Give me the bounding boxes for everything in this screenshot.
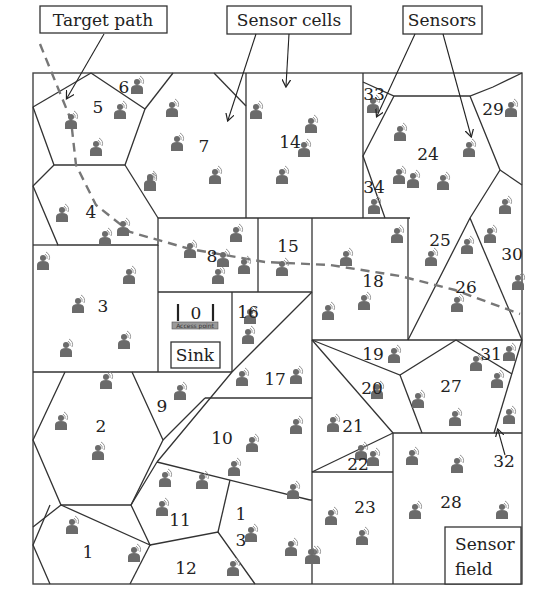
callout-sensors: Sensors bbox=[377, 6, 482, 136]
sensor-icon bbox=[274, 162, 289, 184]
sensor-icon bbox=[97, 224, 112, 246]
sensor-icon bbox=[386, 341, 401, 363]
cell-label: 10 bbox=[211, 428, 233, 448]
cell-label: 23 bbox=[354, 497, 376, 517]
cell-label: 27 bbox=[440, 376, 462, 396]
cell-label: 24 bbox=[417, 144, 439, 164]
sensor-icon bbox=[501, 339, 516, 361]
sensor-icon bbox=[482, 221, 497, 243]
cell-label: 16 bbox=[237, 302, 259, 322]
cell-label: 19 bbox=[362, 344, 384, 364]
cell-label: 5 bbox=[93, 97, 104, 117]
sensor-icon bbox=[244, 430, 259, 452]
sensor-icon bbox=[494, 497, 509, 519]
cell-label: 21 bbox=[342, 416, 364, 436]
sensor-icon bbox=[194, 467, 209, 489]
sensor-icon bbox=[389, 221, 404, 243]
sensor-icon bbox=[449, 451, 464, 473]
cell-label: 3 bbox=[236, 530, 247, 550]
callout-sensor-field: Sensor field bbox=[445, 527, 521, 584]
sensor-field-label-line1: Sensor bbox=[455, 534, 516, 554]
sensor-field-label-line2: field bbox=[455, 559, 493, 579]
cell-label: 12 bbox=[175, 558, 197, 578]
sensor-icon bbox=[354, 523, 369, 545]
cell-label: 11 bbox=[169, 510, 191, 530]
sensor-icon bbox=[391, 162, 406, 184]
sensor-icon bbox=[207, 162, 222, 184]
sensor-icon bbox=[164, 95, 179, 117]
sensor-icon bbox=[35, 248, 50, 270]
cell-label: 33 bbox=[363, 84, 385, 104]
cell-label: 14 bbox=[279, 132, 301, 152]
sensor-icon bbox=[447, 404, 462, 426]
sensor-icon bbox=[63, 107, 78, 129]
cell-label: 3 bbox=[98, 296, 109, 316]
sensor-icon bbox=[435, 168, 450, 190]
sensor-icon bbox=[121, 262, 136, 284]
sensor-icon bbox=[410, 386, 425, 408]
sensor-icon bbox=[407, 497, 422, 519]
sensor-icon bbox=[98, 367, 113, 389]
access-point-label: Access point bbox=[176, 322, 214, 330]
sensor-icon bbox=[226, 454, 241, 476]
sensor-icon bbox=[169, 129, 184, 151]
cell-label: 25 bbox=[429, 230, 451, 250]
sensor-icon bbox=[497, 192, 512, 214]
sensor-icon bbox=[325, 410, 340, 432]
cell-label: 1 bbox=[236, 504, 247, 524]
sensor-icon bbox=[53, 408, 68, 430]
sensor-icon bbox=[58, 335, 73, 357]
cell-label: 1 bbox=[83, 542, 94, 562]
sensor-icon bbox=[338, 244, 353, 266]
sensor-icon bbox=[88, 134, 103, 156]
sensors-label: Sensors bbox=[408, 10, 476, 30]
sensor-icon bbox=[503, 95, 518, 117]
sensor-icon bbox=[126, 540, 141, 562]
cell-label: 31 bbox=[480, 344, 502, 364]
sensor-icon bbox=[501, 402, 516, 424]
sensor-field-diagram: 1234567891011121314151617181920212223242… bbox=[0, 0, 552, 612]
sensor-icon bbox=[54, 200, 69, 222]
sensor-icon bbox=[489, 366, 504, 388]
target-path-label: Target path bbox=[53, 10, 153, 30]
cell-label: 8 bbox=[207, 246, 218, 266]
sensor-icon bbox=[303, 542, 318, 564]
sensor-cells-label: Sensor cells bbox=[237, 10, 341, 30]
cell-label: 15 bbox=[277, 236, 299, 256]
sensor-icon bbox=[228, 220, 243, 242]
sink-access-point: 0 Access point Sink bbox=[171, 303, 220, 368]
cell-label: 4 bbox=[86, 202, 97, 222]
cell-label: 34 bbox=[363, 177, 385, 197]
sensor-icon bbox=[157, 465, 172, 487]
sensor-icon bbox=[356, 288, 371, 310]
sensor-icon bbox=[240, 322, 255, 344]
sensor-icon bbox=[90, 438, 105, 460]
cell-label: 30 bbox=[501, 244, 523, 264]
cell-label: 6 bbox=[119, 77, 130, 97]
sensor-icon bbox=[129, 72, 144, 94]
cell-label: 9 bbox=[157, 396, 168, 416]
sensor-icon bbox=[225, 554, 240, 576]
sensor-icon bbox=[115, 214, 130, 236]
cell-label: 32 bbox=[493, 451, 515, 471]
sensor-icon bbox=[303, 111, 318, 133]
sensor-icon bbox=[285, 477, 300, 499]
cell-label: 26 bbox=[455, 277, 477, 297]
cell-label: 2 bbox=[96, 416, 107, 436]
cell-label: 29 bbox=[482, 99, 504, 119]
sensor-icon bbox=[236, 252, 251, 274]
callout-target-path: Target path bbox=[40, 6, 167, 98]
sensor-icon bbox=[70, 291, 85, 313]
sensor-icon bbox=[288, 362, 303, 384]
cell-label: 28 bbox=[440, 492, 462, 512]
cell-label: 22 bbox=[347, 454, 369, 474]
sensor-icon bbox=[405, 166, 420, 188]
sensor-icon bbox=[404, 443, 419, 465]
sensor-icon bbox=[461, 135, 476, 157]
sink-label: Sink bbox=[176, 345, 215, 365]
cell-label: 20 bbox=[361, 378, 383, 398]
sensor-icon bbox=[172, 378, 187, 400]
sensor-icon bbox=[288, 412, 303, 434]
sensor-icon bbox=[323, 503, 338, 525]
sink-cell-number: 0 bbox=[191, 303, 202, 323]
